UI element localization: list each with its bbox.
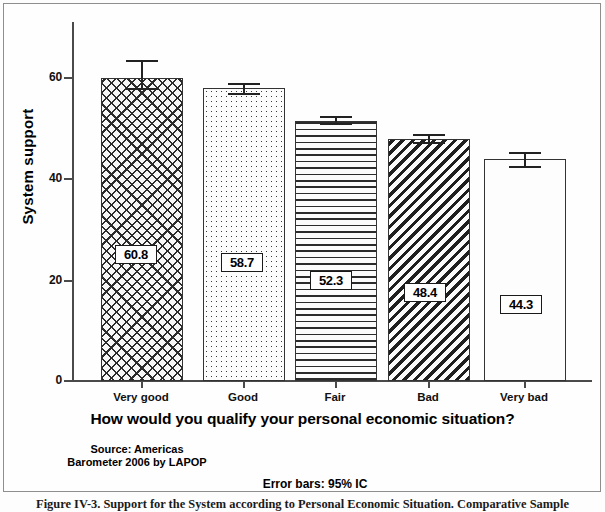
source-note-line1: Source: Americas <box>22 443 252 456</box>
x-tick-label-very-good: Very good <box>91 391 191 403</box>
x-tick-label-fair: Fair <box>285 391 385 403</box>
error-bar-bad <box>413 134 445 144</box>
error-bar-cap-bottom <box>509 166 541 168</box>
figure-caption: Figure IV-3. Support for the System acco… <box>0 497 605 512</box>
y-tick-label-0: 0 <box>36 373 62 387</box>
y-tick-60 <box>64 77 73 79</box>
error-bar-cap-bottom <box>126 88 158 90</box>
x-tick-very-good <box>141 382 143 388</box>
error-bar-line <box>141 60 143 90</box>
x-axis-title: How would you qualify your personal econ… <box>0 410 605 428</box>
value-label-fair: 52.3 <box>310 271 352 290</box>
error-bar-cap-bottom <box>228 93 260 95</box>
bar-very-bad[interactable] <box>484 159 566 381</box>
error-bar-cap-bottom <box>320 123 352 125</box>
x-tick-label-very-bad: Very bad <box>474 391 574 403</box>
value-label-very-good: 60.8 <box>115 245 157 264</box>
error-bar-cap-bottom <box>413 142 445 144</box>
error-bar-cap-top <box>228 83 260 85</box>
value-label-bad: 48.4 <box>404 283 446 302</box>
y-tick-20 <box>64 280 73 282</box>
value-label-good: 58.7 <box>221 253 263 272</box>
error-bar-cap-top <box>413 134 445 136</box>
bar-very-good[interactable] <box>101 78 183 381</box>
x-tick-good <box>243 382 245 388</box>
y-tick-0 <box>64 380 73 382</box>
y-tick-label-40: 40 <box>36 171 62 185</box>
y-tick-label-20: 20 <box>36 273 62 287</box>
y-axis-title: System support <box>19 62 36 272</box>
y-tick-40 <box>64 178 73 180</box>
error-bar-cap-top <box>126 60 158 62</box>
x-tick-fair <box>335 382 337 388</box>
source-note-line2: Barometer 2006 by LAPOP <box>22 456 252 469</box>
error-bar-very-bad <box>509 152 541 168</box>
error-bar-cap-top <box>320 116 352 118</box>
x-tick-bad <box>428 382 430 388</box>
error-bar-note: Error bars: 95% IC <box>150 477 480 491</box>
source-note: Source: Americas Barometer 2006 by LAPOP <box>22 443 252 469</box>
bar-fair[interactable] <box>295 121 377 381</box>
x-tick-very-bad <box>524 382 526 388</box>
x-tick-label-bad: Bad <box>378 391 478 403</box>
bar-bad[interactable] <box>388 139 470 381</box>
bar-good[interactable] <box>203 88 285 381</box>
error-bar-cap-top <box>509 152 541 154</box>
value-label-very-bad: 44.3 <box>500 295 542 314</box>
error-bar-fair <box>320 116 352 125</box>
error-bar-very-good <box>126 60 158 90</box>
y-axis-line <box>72 22 74 382</box>
figure-page: System support 60 40 20 0 60.8 58.7 52.3… <box>0 0 605 512</box>
error-bar-good <box>228 83 260 95</box>
x-tick-label-good: Good <box>193 391 293 403</box>
y-tick-label-60: 60 <box>36 70 62 84</box>
